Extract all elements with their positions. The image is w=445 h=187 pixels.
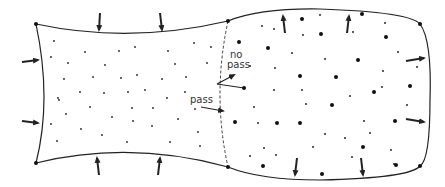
left-top-boundary [36, 21, 228, 33]
diagram-canvas: no pass pass [0, 0, 445, 187]
pass-label: pass [190, 94, 213, 105]
arrow-icon [22, 60, 38, 62]
arrow-icon [160, 13, 162, 30]
arrow-icon [22, 121, 38, 123]
right-region-arrows [283, 16, 424, 175]
arrow-icon [283, 16, 285, 33]
right-region-particles [233, 12, 418, 176]
arrow-icon [158, 158, 160, 175]
no-pass-arrow-icon [217, 75, 234, 84]
no-pass-trajectory [217, 84, 244, 88]
left-region-particles [50, 40, 212, 147]
left-side-boundary [36, 24, 44, 163]
arrow-icon [97, 158, 99, 175]
no-pass-annotation: no pass [217, 49, 250, 90]
left-region-arrows [22, 13, 162, 175]
arrow-icon [347, 16, 349, 33]
arrow-icon [295, 158, 297, 175]
arrow-icon [406, 119, 424, 122]
left-bottom-boundary [36, 152, 228, 167]
pass-arrow-icon [201, 107, 223, 111]
arrow-icon [406, 58, 424, 61]
arrow-icon [361, 158, 363, 175]
right-bottom-boundary [228, 166, 420, 180]
no-pass-label-line2: pass [227, 59, 250, 70]
dashed-interface [220, 21, 228, 167]
arrow-icon [99, 13, 100, 30]
right-top-boundary [228, 9, 420, 24]
right-side-boundary [420, 24, 430, 166]
no-pass-particle [242, 86, 246, 90]
right-region [228, 9, 430, 180]
